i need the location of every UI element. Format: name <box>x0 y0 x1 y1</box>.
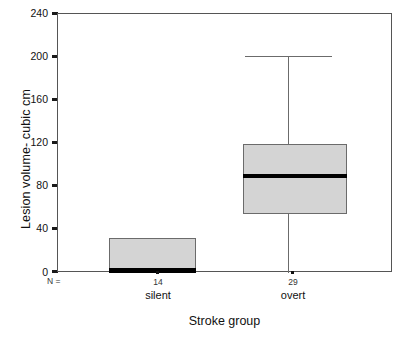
y-axis-title: Lesion volume- cubic cm <box>15 29 37 289</box>
boxplot-figure: Lesion volume- cubic cm 240 200 160 120 … <box>0 0 406 338</box>
overt-n-value: 29 <box>273 277 313 287</box>
y-tick-label-240: 240 <box>8 8 48 18</box>
overt-upper-whisker-cap <box>245 56 332 57</box>
y-tick-label-120: 120 <box>8 137 48 147</box>
category-label-silent: silent <box>126 289 190 301</box>
overt-lower-whisker-line <box>288 214 289 273</box>
y-tick-label-0: 0 <box>8 267 48 277</box>
y-tick-label-40: 40 <box>8 223 48 233</box>
y-tick-label-160: 160 <box>8 94 48 104</box>
y-tick-label-80: 80 <box>8 180 48 190</box>
x-axis-title: Stroke group <box>57 314 392 328</box>
category-label-overt: overt <box>261 289 325 301</box>
overt-upper-whisker-line <box>288 56 289 145</box>
silent-n-marker <box>156 271 159 274</box>
silent-n-value: 14 <box>138 277 178 287</box>
y-tick-label-200: 200 <box>8 51 48 61</box>
silent-median-line <box>109 268 196 273</box>
n-prefix-label: N = <box>47 276 60 286</box>
plot-area <box>57 13 392 272</box>
overt-n-marker <box>291 271 294 274</box>
overt-median-line <box>243 174 347 178</box>
overt-box <box>243 144 347 214</box>
